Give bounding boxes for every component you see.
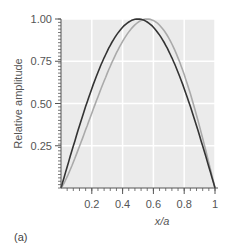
- y-tick-label: 0.25: [31, 140, 52, 152]
- x-axis-label: x/a: [154, 215, 170, 227]
- y-tick-label: 0.75: [31, 55, 52, 67]
- x-tick-label: 0.4: [115, 198, 130, 210]
- x-tick-label: 1: [212, 198, 218, 210]
- x-tick-label: 0.6: [146, 198, 161, 210]
- y-tick-label: 0.50: [31, 98, 52, 110]
- panel-label: (a): [14, 231, 27, 243]
- x-tick-label: 0.8: [177, 198, 192, 210]
- x-tick-label: 0.2: [84, 198, 99, 210]
- y-axis-label: Relative amplitude: [12, 58, 24, 149]
- y-tick-label: 1.00: [31, 13, 52, 25]
- amplitude-chart: 0.250.500.751.000.20.40.60.81x/aRelative…: [0, 0, 231, 246]
